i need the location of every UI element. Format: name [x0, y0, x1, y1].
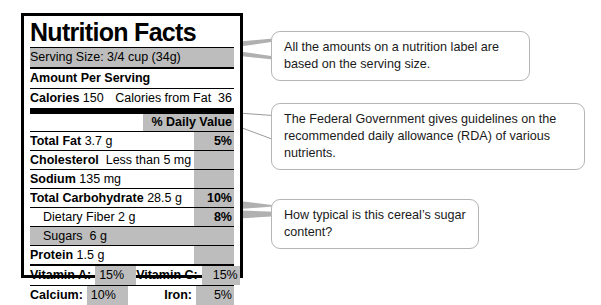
calories-label: Calories: [30, 91, 79, 105]
calories-from-fat: Calories from Fat 36: [104, 92, 234, 105]
micronutrient-label-iron: Iron:: [164, 286, 196, 305]
nutrient-name-amount: Sugars 6 g: [30, 228, 194, 245]
nutrient-daily-value: 8%: [194, 208, 234, 226]
serving-size-row: Serving Size: 3/4 cup (34g): [30, 48, 234, 69]
nutrient-row-dietary-fiber: Dietary Fiber 2 g 8%: [30, 208, 234, 227]
callout-rda: The Federal Government gives guidelines …: [271, 103, 585, 170]
nutrient-daily-value: 5%: [194, 132, 234, 150]
nutrient-daily-value: [194, 170, 234, 188]
nutrient-name: Cholesterol: [30, 153, 99, 167]
nutrient-amount: Less than 5 mg: [106, 153, 191, 167]
nutrient-name: Total Fat: [30, 134, 81, 148]
micronutrient-label-calcium: Calcium:: [30, 286, 87, 305]
nutrient-name-amount: Total Carbohydrate 28.5 g: [30, 190, 194, 207]
nutrient-amount: 3.7 g: [85, 134, 113, 148]
nutrient-row-cholesterol: Cholesterol Less than 5 mg: [30, 151, 234, 170]
calories-value: 150: [83, 91, 104, 105]
amount-per-serving-row: Amount Per Serving: [30, 69, 234, 89]
nutrient-row-sugars: Sugars 6 g: [30, 227, 234, 246]
callout-sugar-content: How typical is this cereal’s sugar conte…: [271, 199, 479, 249]
nutrient-amount: 28.5 g: [147, 191, 182, 205]
callout-serving-size: All the amounts on a nutrition label are…: [271, 31, 530, 81]
nutrient-name-amount: Protein 1.5 g: [30, 247, 194, 264]
nutrient-name: Sodium: [30, 172, 76, 186]
calories-from-fat-label: Calories from Fat: [115, 91, 211, 105]
nutrient-name-amount: Cholesterol Less than 5 mg: [30, 152, 194, 169]
label-title: Nutrition Facts: [30, 16, 234, 48]
nutrient-daily-value: [194, 227, 234, 245]
micronutrient-value-iron: 5%: [196, 286, 234, 305]
micronutrient-label-vitamin-a: Vitamin A:: [30, 266, 95, 285]
nutrient-name-amount: Dietary Fiber 2 g: [30, 209, 194, 226]
micronutrient-label-vitamin-c: Vitamin C:: [136, 266, 202, 285]
nutrient-row-sodium: Sodium 135 mg: [30, 170, 234, 189]
daily-value-header: % Daily Value: [143, 114, 234, 131]
micronutrient-row-minerals: Calcium: 10% Iron: 5%: [30, 286, 234, 305]
nutrient-daily-value: 10%: [194, 189, 234, 207]
nutrient-amount: 6 g: [90, 229, 107, 243]
nutrition-facts-label: Nutrition Facts Serving Size: 3/4 cup (3…: [21, 13, 243, 278]
nutrient-daily-value: [194, 151, 234, 169]
micronutrient-value-vitamin-a: 15%: [95, 266, 136, 285]
daily-value-header-row: % Daily Value: [30, 114, 234, 132]
nutrient-amount: 2 g: [118, 210, 135, 224]
nutrient-amount: 135 mg: [79, 172, 121, 186]
nutrient-row-total-fat: Total Fat 3.7 g 5%: [30, 132, 234, 151]
nutrient-name: Sugars: [43, 229, 83, 243]
nutrient-name: Dietary Fiber: [43, 210, 115, 224]
nutrient-row-protein: Protein 1.5 g: [30, 246, 234, 266]
micronutrient-spacer: [128, 286, 164, 305]
micronutrient-value-vitamin-c: 15%: [202, 266, 240, 285]
nutrient-name-amount: Total Fat 3.7 g: [30, 133, 194, 150]
micronutrient-row-vitamins: Vitamin A: 15% Vitamin C: 15%: [30, 266, 234, 286]
nutrient-name: Protein: [30, 248, 73, 262]
calories-row: Calories 150 Calories from Fat 36: [30, 89, 234, 114]
nutrient-daily-value: [194, 246, 234, 264]
nutrient-amount: 1.5 g: [77, 248, 105, 262]
calories-from-fat-value: 36: [218, 91, 232, 105]
nutrient-name: Total Carbohydrate: [30, 191, 144, 205]
nutrient-name-amount: Sodium 135 mg: [30, 171, 194, 188]
calories-main: Calories 150: [30, 92, 104, 105]
micronutrient-value-calcium: 10%: [87, 286, 128, 305]
nutrient-row-total-carbohydrate: Total Carbohydrate 28.5 g 10%: [30, 189, 234, 208]
